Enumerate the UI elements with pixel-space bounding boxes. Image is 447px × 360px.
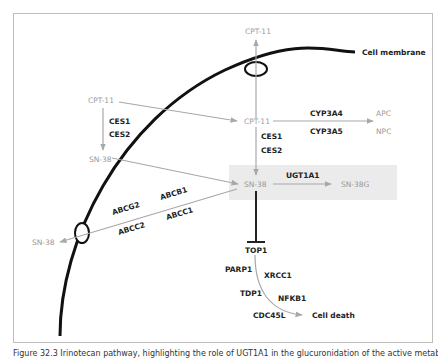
enzyme-ugt1a1: UGT1A1 <box>286 171 319 180</box>
node-sn38-outside: SN-38 <box>89 155 112 164</box>
figure-caption: Figure 32.3 Irinotecan pathway, highligh… <box>13 349 438 358</box>
node-sn38-inside: SN-38 <box>244 180 267 189</box>
transporter-oval-left <box>75 223 89 243</box>
enzyme-xrcc1: XRCC1 <box>264 271 292 280</box>
enzyme-ces2-outside: CES2 <box>109 130 130 139</box>
enzyme-ces1-inside: CES1 <box>261 132 282 141</box>
enzyme-nfkb1: NFKB1 <box>278 294 306 303</box>
enzyme-parp1: PARP1 <box>225 265 252 274</box>
enzyme-abcc1: ABCC1 <box>165 205 194 222</box>
enzyme-tdp1: TDP1 <box>240 289 262 298</box>
node-cell-death: Cell death <box>312 311 355 320</box>
membrane-label: Cell membrane <box>362 48 426 57</box>
enzyme-ces1-outside: CES1 <box>109 117 130 126</box>
enzyme-abcb1: ABCB1 <box>159 185 188 202</box>
node-cpt11-top: CPT-11 <box>245 27 271 36</box>
arrow-cpt11-uptake <box>119 102 237 121</box>
enzyme-cdc45l: CDC45L <box>253 311 286 320</box>
node-top1: TOP1 <box>245 246 267 255</box>
node-sn38g: SN-38G <box>341 180 370 189</box>
node-cpt11-inside: CPT-11 <box>244 117 270 126</box>
node-sn38-efflux: SN-38 <box>32 238 55 247</box>
node-npc: NPC <box>376 127 391 136</box>
node-apc: APC <box>376 109 391 118</box>
enzyme-cyp3a5: CYP3A5 <box>310 127 343 136</box>
enzyme-cyp3a4: CYP3A4 <box>310 109 343 118</box>
enzyme-ces2-inside: CES2 <box>261 146 282 155</box>
pathway-diagram: CPT-11 Cell membrane CPT-11 CES1 CES2 SN… <box>0 0 447 360</box>
node-cpt11-outside: CPT-11 <box>88 96 114 105</box>
arrow-cell-death <box>255 255 302 315</box>
enzyme-abcc2: ABCC2 <box>117 220 146 237</box>
enzyme-abcg2: ABCG2 <box>111 200 141 217</box>
arrow-sn38-uptake <box>112 158 238 184</box>
